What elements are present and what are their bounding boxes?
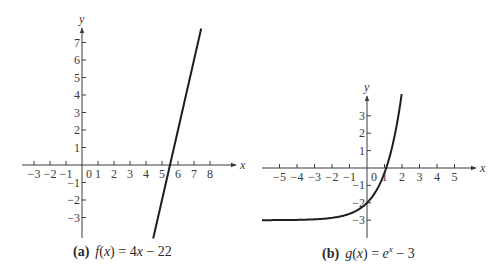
caption-b-tag: (b) — [322, 246, 339, 261]
x-tick-label: 3 — [127, 167, 133, 181]
x-tick-label: 5 — [452, 170, 458, 184]
x-tick-label: 1 — [95, 167, 101, 181]
x-tick-label: −2 — [326, 170, 339, 184]
y-tick-label: 6 — [74, 53, 80, 67]
caption-b: (b)g(x) = ex − 3 — [322, 244, 415, 262]
x-axis-label: x — [479, 161, 486, 175]
y-tick-label: −3 — [352, 213, 365, 227]
x-tick-label: 2 — [111, 167, 117, 181]
y-tick-label: −2 — [352, 196, 365, 210]
y-tick-label: 5 — [74, 71, 80, 85]
x-tick-label: 4 — [434, 170, 440, 184]
caption-a-tag: (a) — [73, 244, 89, 259]
y-tick-label: −2 — [67, 193, 80, 207]
y-tick-label: 2 — [359, 126, 365, 140]
y-tick-label: 4 — [74, 88, 80, 102]
y-tick-label: −3 — [67, 211, 80, 225]
x-tick-label: 3 — [417, 170, 423, 184]
x-axis-label: x — [239, 158, 246, 172]
y-tick-label: −1 — [352, 178, 365, 192]
x-tick-label: 7 — [191, 167, 197, 181]
y-axis-label: y — [78, 12, 85, 26]
x-tick-label: 0 — [86, 167, 92, 181]
x-tick-label: −2 — [44, 167, 57, 181]
x-tick-label: 8 — [207, 167, 213, 181]
y-tick-label: 7 — [74, 36, 80, 50]
x-tick-label: −3 — [28, 167, 41, 181]
caption-a-formula: f(x) = 4x − 22 — [95, 244, 171, 259]
y-tick-label: 1 — [74, 141, 80, 155]
x-tick-label: −3 — [308, 170, 321, 184]
y-tick-label: 3 — [359, 109, 365, 123]
x-tick-label: 5 — [159, 167, 165, 181]
x-tick-label: −5 — [273, 170, 286, 184]
y-axis-label: y — [363, 80, 370, 94]
caption-a: (a)f(x) = 4x − 22 — [73, 244, 172, 260]
x-tick-label: 0 — [371, 170, 377, 184]
y-tick-label: −1 — [67, 176, 80, 190]
y-tick-label: 3 — [74, 106, 80, 120]
panel-b-exponential-graph: xy−5−4−3−2−1012345−3−2−1123 — [262, 80, 486, 238]
x-tick-label: 6 — [175, 167, 181, 181]
caption-b-formula: g(x) = ex − 3 — [345, 246, 415, 261]
x-tick-label: −4 — [291, 170, 304, 184]
y-tick-label: 1 — [359, 144, 365, 158]
y-tick-label: 2 — [74, 123, 80, 137]
line-f-of-x — [153, 29, 201, 239]
function-graphs: xy−3−2−1012345678−3−2−11234567 xy−5−4−3−… — [0, 0, 501, 275]
curve-g-of-x — [262, 94, 402, 220]
x-tick-label: 4 — [143, 167, 149, 181]
x-tick-label: 2 — [399, 170, 405, 184]
panel-a-linear-graph: xy−3−2−1012345678−3−2−11234567 — [22, 12, 246, 239]
